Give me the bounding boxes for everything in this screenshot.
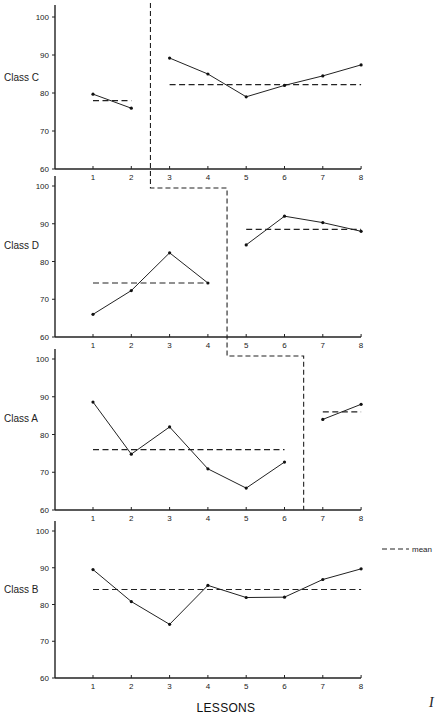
y-tick-label: 80	[40, 258, 49, 267]
x-tick-label: 4	[206, 173, 211, 182]
panel-class-c: 6070809010012345678Class C	[4, 5, 364, 182]
data-point	[360, 567, 363, 570]
y-tick-label: 70	[40, 295, 49, 304]
x-tick-label: 5	[244, 341, 249, 350]
x-tick-label: 3	[167, 341, 172, 350]
x-tick-label: 1	[91, 514, 96, 523]
legend-mean-label: mean	[412, 545, 432, 554]
x-tick-label: 4	[206, 514, 211, 523]
x-tick-label: 4	[206, 682, 211, 691]
data-point	[130, 453, 133, 456]
y-tick-label: 100	[36, 13, 50, 22]
score-line	[93, 569, 361, 624]
score-line	[246, 216, 361, 245]
panel-class-a: 6070809010012345678Class A	[4, 349, 364, 523]
x-tick-label: 6	[282, 341, 287, 350]
x-tick-label: 3	[167, 514, 172, 523]
data-point	[168, 425, 171, 428]
x-tick-label: 8	[359, 341, 364, 350]
x-tick-label: 1	[91, 341, 96, 350]
y-tick-label: 70	[40, 637, 49, 646]
data-point	[245, 487, 248, 490]
x-tick-label: 5	[244, 682, 249, 691]
x-tick-label: 1	[91, 173, 96, 182]
y-tick-label: 80	[40, 431, 49, 440]
data-point	[91, 93, 94, 96]
x-tick-label: 7	[321, 341, 326, 350]
y-tick-label: 90	[40, 564, 49, 573]
legend: mean	[382, 545, 432, 554]
score-line	[93, 94, 131, 108]
y-tick-label: 80	[40, 89, 49, 98]
figure-mark: I	[428, 695, 435, 710]
data-point	[130, 289, 133, 292]
phase-change-lines	[150, 3, 303, 510]
data-point	[283, 84, 286, 87]
data-point	[130, 600, 133, 603]
class-label: Class B	[4, 584, 39, 595]
data-point	[91, 313, 94, 316]
data-point	[321, 221, 324, 224]
score-line	[93, 253, 208, 315]
score-line	[170, 58, 362, 97]
data-point	[206, 72, 209, 75]
x-axis-title: LESSONS	[197, 701, 256, 715]
data-point	[168, 623, 171, 626]
data-point	[206, 281, 209, 284]
x-tick-label: 4	[206, 341, 211, 350]
x-tick-label: 7	[321, 514, 326, 523]
y-tick-label: 60	[40, 333, 49, 342]
y-tick-label: 100	[36, 182, 50, 191]
y-tick-label: 100	[36, 355, 50, 364]
panel-class-d: 6070809010012345678Class D	[4, 176, 364, 350]
data-point	[321, 578, 324, 581]
y-tick-label: 70	[40, 127, 49, 136]
x-tick-label: 3	[167, 682, 172, 691]
data-point	[283, 215, 286, 218]
data-point	[360, 403, 363, 406]
chart-panels: 6070809010012345678Class C60708090100123…	[4, 5, 364, 691]
data-point	[283, 460, 286, 463]
data-point	[321, 418, 324, 421]
y-tick-label: 60	[40, 506, 49, 515]
y-tick-label: 80	[40, 601, 49, 610]
y-tick-label: 70	[40, 468, 49, 477]
x-tick-label: 8	[359, 682, 364, 691]
data-point	[168, 251, 171, 254]
data-point	[245, 95, 248, 98]
data-point	[245, 596, 248, 599]
x-tick-label: 6	[282, 173, 287, 182]
y-tick-label: 60	[40, 165, 49, 174]
x-tick-label: 1	[91, 682, 96, 691]
phase-change-staircase	[150, 3, 303, 510]
x-tick-label: 8	[359, 514, 364, 523]
data-point	[130, 107, 133, 110]
data-point	[91, 568, 94, 571]
multiple-baseline-chart: 6070809010012345678Class C60708090100123…	[0, 0, 439, 716]
x-tick-label: 2	[129, 341, 134, 350]
y-tick-label: 90	[40, 220, 49, 229]
data-point	[91, 400, 94, 403]
data-point	[283, 596, 286, 599]
x-tick-label: 2	[129, 682, 134, 691]
class-label: Class A	[4, 413, 38, 424]
data-point	[360, 230, 363, 233]
y-tick-label: 90	[40, 51, 49, 60]
data-point	[360, 63, 363, 66]
data-point	[206, 584, 209, 587]
y-tick-label: 60	[40, 674, 49, 683]
data-point	[321, 74, 324, 77]
x-tick-label: 5	[244, 514, 249, 523]
x-tick-label: 5	[244, 173, 249, 182]
y-tick-label: 100	[36, 527, 50, 536]
data-point	[245, 243, 248, 246]
data-point	[206, 467, 209, 470]
x-tick-label: 7	[321, 682, 326, 691]
panel-class-b: 6070809010012345678Class B	[4, 521, 364, 691]
x-tick-label: 8	[359, 173, 364, 182]
data-point	[168, 56, 171, 59]
x-tick-label: 7	[321, 173, 326, 182]
x-tick-label: 2	[129, 514, 134, 523]
x-tick-label: 2	[129, 173, 134, 182]
x-tick-label: 3	[167, 173, 172, 182]
